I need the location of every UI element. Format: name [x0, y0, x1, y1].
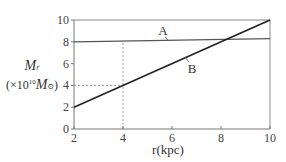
y-tick-label: 2 — [63, 100, 69, 114]
dotted-guides — [74, 42, 123, 129]
y-axis-symbol: M — [25, 58, 37, 73]
series-labels: AB — [158, 23, 196, 76]
x-tick-label: 8 — [218, 131, 224, 145]
series-line-b — [74, 20, 270, 107]
y-tick-label: 4 — [63, 78, 69, 92]
y-axis-unit-prefix: (×10 — [6, 78, 29, 92]
series-label-a: A — [158, 23, 168, 38]
y-axis-exponent: 10 — [29, 78, 36, 86]
y-tick-label: 10 — [57, 13, 69, 27]
series-line-a — [74, 39, 270, 42]
series-label-b: B — [188, 61, 197, 76]
x-tick-label: 2 — [71, 131, 77, 145]
y-tick-label: 8 — [63, 35, 69, 49]
y-axis-subscript: r — [36, 63, 39, 72]
x-tick-label: 4 — [120, 131, 126, 145]
x-tick-label: 10 — [264, 131, 276, 145]
y-axis-label: Mr (×1010M⊙) — [2, 59, 62, 94]
x-axis-label: r(kpc) — [152, 142, 184, 157]
series-lines — [74, 20, 270, 107]
y-tick-label: 6 — [63, 57, 69, 71]
y-tick-label: 0 — [63, 122, 69, 136]
y-axis-unit-close: ) — [54, 78, 58, 92]
plot-frame — [74, 20, 270, 129]
y-axis-unit-symbol: M — [36, 77, 48, 92]
